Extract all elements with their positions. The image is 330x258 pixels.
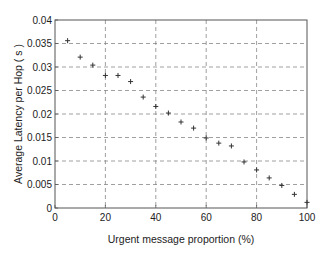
y-tick-label: 0.03 (33, 62, 53, 73)
data-point (305, 200, 310, 205)
x-axis-label: Urgent message proportion (%) (108, 233, 254, 245)
y-tick-label: 0.02 (33, 109, 53, 120)
scatter-chart: 020406080100 00.0050.010.0150.020.0250.0… (0, 0, 330, 258)
y-tick-label: 0 (46, 203, 52, 214)
y-axis-ticks: 00.0050.010.0150.020.0250.030.0350.04 (27, 15, 58, 214)
data-point (128, 79, 133, 84)
x-tick-label: 40 (150, 212, 162, 223)
data-point (254, 167, 259, 172)
x-tick-label: 100 (299, 212, 316, 223)
data-point (242, 159, 247, 164)
data-point (153, 104, 158, 109)
y-tick-label: 0.035 (27, 38, 52, 49)
data-point (216, 141, 221, 146)
data-point (78, 55, 83, 60)
data-point (141, 95, 146, 100)
y-axis-label: Average Latency per Hop ( s ) (12, 44, 24, 184)
data-point (279, 183, 284, 188)
y-tick-label: 0.04 (33, 15, 53, 26)
x-tick-label: 0 (52, 212, 58, 223)
data-point (191, 126, 196, 131)
data-point (65, 38, 70, 43)
y-tick-label: 0.01 (33, 156, 53, 167)
data-point (103, 73, 108, 78)
data-point (229, 143, 234, 148)
y-tick-label: 0.015 (27, 132, 52, 143)
data-point (166, 111, 171, 116)
data-point (292, 192, 297, 197)
data-point (267, 175, 272, 180)
data-point (179, 119, 184, 124)
data-points (65, 38, 309, 205)
x-tick-label: 60 (201, 212, 213, 223)
x-tick-label: 20 (100, 212, 112, 223)
data-point (204, 135, 209, 140)
data-point (116, 73, 121, 78)
y-tick-label: 0.005 (27, 179, 52, 190)
x-tick-label: 80 (251, 212, 263, 223)
y-tick-label: 0.025 (27, 85, 52, 96)
